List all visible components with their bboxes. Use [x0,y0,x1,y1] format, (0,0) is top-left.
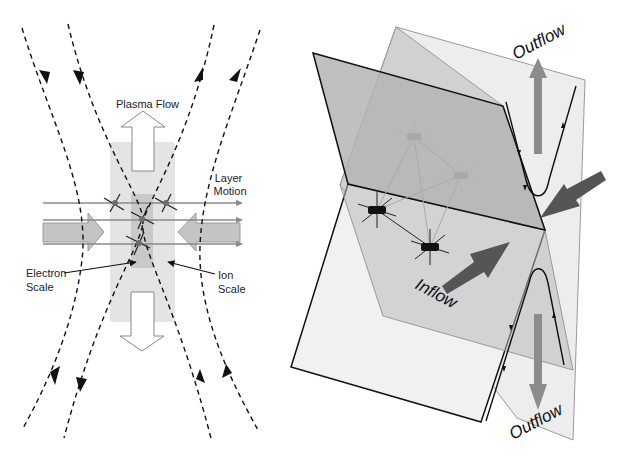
plasma-flow-label: Plasma Flow [116,98,179,110]
inflow-arrow-left [43,213,104,251]
right-panel: Outflow Inflow Outflow [291,19,606,444]
layer-motion-label: Layer Motion [213,172,246,197]
left-panel: Plasma Flow Layer Motion Electron Scale … [22,24,260,438]
electron-scale-label: Electron Scale [26,267,69,293]
outflow-label-top: Outflow [509,19,570,64]
inflow-arrow-right [178,213,240,251]
reconnection-diagram: Plasma Flow Layer Motion Electron Scale … [0,0,626,458]
ion-scale-label: Ion Scale [218,269,246,295]
